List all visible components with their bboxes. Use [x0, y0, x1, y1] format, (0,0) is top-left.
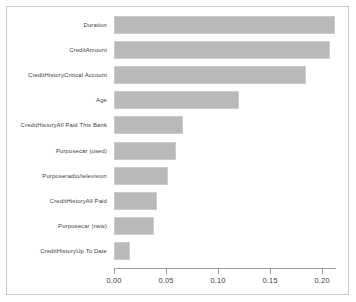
chart-container: DurationCreditAmountCreditHistoryCritica… [0, 0, 356, 302]
bar-row: CreditHistoryAll Paid [114, 192, 336, 210]
bar-category-label: CreditAmount [69, 41, 107, 59]
bar-category-label: Purposecar (used) [56, 142, 107, 160]
x-tick-mark [114, 269, 115, 274]
x-tick-mark [166, 269, 167, 274]
bar-category-label: Duration [84, 16, 107, 34]
bar-category-label: Age [96, 91, 107, 109]
x-tick-mark [270, 269, 271, 274]
x-tick-label: 0.15 [263, 276, 278, 285]
bar-category-label: CreditHistoryAll Paid [50, 192, 107, 210]
x-axis-ticks: 0.000.050.100.150.20 [114, 269, 336, 293]
bar [114, 66, 306, 84]
bar-category-label: CreditHistoryCritical Account [28, 66, 107, 84]
bar-category-label: CreditHistoryAll Paid This Bank [21, 116, 107, 134]
bar [114, 91, 239, 109]
bar-row: Purposecar (new) [114, 217, 336, 235]
bar-row: CreditHistoryAll Paid This Bank [114, 116, 336, 134]
bar-category-label: CreditHistoryUp To Date [40, 242, 107, 260]
bar [114, 41, 330, 59]
bar-row: CreditHistoryCritical Account [114, 66, 336, 84]
bar-row: CreditHistoryUp To Date [114, 242, 336, 260]
bar-row: CreditAmount [114, 41, 336, 59]
bar [114, 217, 154, 235]
x-tick-label: 0.00 [106, 276, 121, 285]
bar-row: Duration [114, 16, 336, 34]
x-tick-label: 0.20 [315, 276, 330, 285]
bar-row: Purposecar (used) [114, 142, 336, 160]
x-tick-label: 0.05 [158, 276, 173, 285]
bar [114, 192, 157, 210]
bar [114, 242, 130, 260]
bar-category-label: Purposecar (new) [58, 217, 107, 235]
x-tick-mark [322, 269, 323, 274]
bar-row: Age [114, 91, 336, 109]
bar [114, 167, 168, 185]
bar [114, 142, 176, 160]
x-tick-label: 0.10 [210, 276, 225, 285]
plot-area: DurationCreditAmountCreditHistoryCritica… [114, 12, 336, 264]
bar-row: Purposeradio/television [114, 167, 336, 185]
bar [114, 16, 335, 34]
bar [114, 116, 183, 134]
bar-category-label: Purposeradio/television [42, 167, 107, 185]
x-tick-mark [218, 269, 219, 274]
